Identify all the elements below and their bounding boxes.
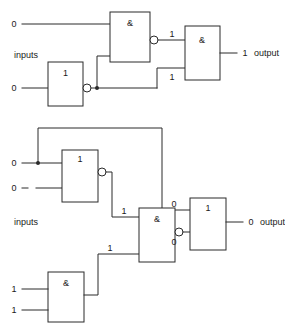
logic-diagram: & 1 & 0 0 1 1 1 inputs output (0, 0, 285, 336)
bottom-input0-value: 0 (11, 158, 16, 168)
bottom-or-symbol: 1 (205, 203, 210, 213)
bottom-wire-feedback (38, 128, 190, 210)
top-inverter-symbol: 1 (63, 68, 68, 78)
top-circuit: & 1 & 0 0 1 1 1 inputs output (11, 12, 279, 106)
top-nand-bubble (150, 36, 158, 44)
bottom-and-out-value: 1 (107, 243, 112, 253)
bottom-nand-symbol: & (154, 214, 160, 224)
top-wire-feedback-up (97, 56, 110, 88)
bottom-nand-out-value: 0 (171, 237, 176, 247)
top-output-value: 1 (242, 48, 247, 58)
bottom-and-symbol: & (63, 278, 69, 288)
top-nand-symbol: & (127, 18, 133, 28)
bottom-output-value: 0 (248, 217, 253, 227)
bottom-output-label: output (260, 217, 285, 227)
top-inputs-label: inputs (14, 50, 39, 60)
top-inverter-bubble (83, 84, 91, 92)
bottom-feedback-value: 0 (171, 199, 176, 209)
bottom-inputs-label: inputs (14, 217, 39, 227)
top-input1-value: 0 (11, 83, 16, 93)
bottom-nand-bubble (175, 228, 183, 236)
top-mid-lower-value: 1 (169, 72, 174, 82)
bottom-nor-out-value: 1 (121, 206, 126, 216)
bottom-wire-and-out (84, 254, 139, 295)
bottom-input1-value: 0 (11, 183, 16, 193)
bottom-input2-value: 1 (11, 284, 16, 294)
top-output-label: output (254, 48, 280, 58)
top-and-symbol: & (199, 35, 205, 45)
top-mid-upper-value: 1 (169, 29, 174, 39)
bottom-input3-value: 1 (11, 305, 16, 315)
bottom-nor-bubble (98, 168, 106, 176)
bottom-nor-symbol: 1 (77, 154, 82, 164)
bottom-circuit: 1 & & 1 0 0 1 1 1 1 0 0 0 inputs output (11, 128, 285, 322)
top-input0-value: 0 (11, 19, 16, 29)
